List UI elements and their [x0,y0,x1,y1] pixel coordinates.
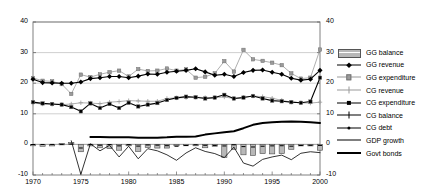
legend-key-line-plus-grey-icon [336,85,362,96]
legend-key-line-dot-icon [336,122,362,133]
legend-item[interactable]: Govt bonds [336,147,440,160]
legend-item[interactable]: CG revenue [336,84,440,97]
legend-key-line-thin-icon [336,135,362,146]
y-axis-right-tick: 30 [326,48,334,55]
legend-label: GDP growth [366,136,404,145]
legend-key-line-diamond-icon [336,59,362,70]
x-axis-tick: 1990 [214,178,234,185]
y-axis-left-tick: -10 [2,170,28,177]
x-axis-tick: 1975 [71,178,91,185]
y-axis-right-tick: 20 [326,78,334,85]
x-axis-tick: 1970 [23,178,43,185]
x-axis-tick: 1985 [167,178,187,185]
legend-label: GG revenue [366,60,404,69]
y-axis-right-tick: -10 [326,170,336,177]
x-axis-tick: 2000 [310,178,330,185]
legend-label: GG balance [366,48,403,57]
legend-key-line-square-black-icon [336,97,362,108]
y-axis-left-tick: 30 [2,48,28,55]
chart-figure: 403020100-10 403020100-10 19701975198019… [0,0,440,193]
legend-item[interactable]: CG debt [336,122,440,135]
legend-label: GG expenditure [366,73,415,82]
legend-key-line-thick-icon [336,148,362,159]
y-axis-right-tick: 40 [326,17,334,24]
legend-label: CG balance [366,111,403,120]
legend-item[interactable]: CG expenditure [336,96,440,109]
legend-label: Govt bonds [366,149,402,158]
legend-key-line-plus-black-icon [336,110,362,121]
y-axis-left-tick: 10 [2,109,28,116]
legend-item[interactable]: GG expenditure [336,71,440,84]
chart-legend: GG balanceGG revenueGG expenditureCG rev… [336,46,440,159]
y-axis-right-tick: 0 [326,139,330,146]
legend-item[interactable]: GG balance [336,46,440,59]
y-axis-left-tick: 0 [2,139,28,146]
legend-label: CG debt [366,123,392,132]
legend-item[interactable]: GG revenue [336,59,440,72]
legend-label: CG revenue [366,86,404,95]
y-axis-left-tick: 40 [2,17,28,24]
legend-key-swatch-icon [336,47,362,58]
legend-item[interactable]: CG balance [336,109,440,122]
x-axis-tick: 1980 [119,178,139,185]
legend-key-line-square-grey-icon [336,72,362,83]
y-axis-right-tick: 10 [326,109,334,116]
legend-item[interactable]: GDP growth [336,134,440,147]
y-axis-left-tick: 20 [2,78,28,85]
x-axis-tick: 1995 [262,178,282,185]
legend-label: CG expenditure [366,98,415,107]
